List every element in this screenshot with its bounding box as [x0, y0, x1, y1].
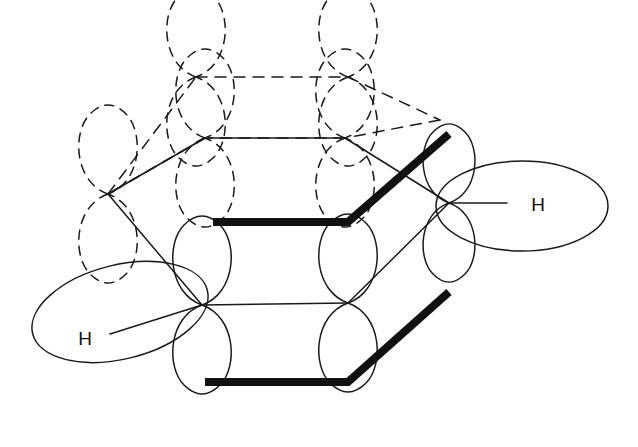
- orbital-diagram-svg: H H: [0, 0, 638, 447]
- h-label-left: H: [78, 328, 92, 349]
- bold-bond-lower: [205, 292, 449, 382]
- front-ring-bond-top-left: [108, 138, 205, 194]
- bold-bonds: [205, 134, 449, 382]
- rear-ring: [108, 77, 440, 194]
- rear-ring-bond-top-left: [108, 77, 196, 194]
- p-orbital-rear-b2: [319, 0, 377, 166]
- front-p-orbitals: [173, 124, 475, 394]
- figure-canvas: H H: [0, 0, 638, 447]
- front-ring-bond-bottom-left: [108, 194, 202, 305]
- h-label-right: H: [531, 194, 545, 215]
- sp2-lobe-right: [436, 161, 608, 251]
- front-ring-bond-bottom: [202, 303, 348, 305]
- rear-ring-bond-top-right: [348, 77, 440, 120]
